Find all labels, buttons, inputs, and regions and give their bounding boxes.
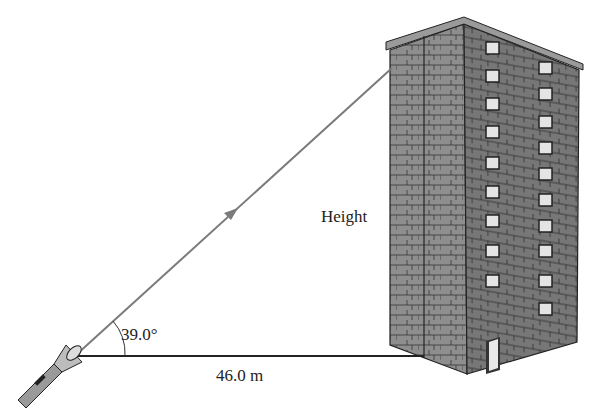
door — [486, 337, 500, 374]
height-label: Height — [321, 207, 367, 227]
window — [539, 62, 552, 74]
window — [486, 245, 499, 257]
distance-label: 46.0 m — [216, 366, 263, 386]
window — [486, 126, 499, 138]
flashlight-icon — [18, 343, 84, 408]
window — [539, 220, 552, 232]
building-right-face — [464, 24, 579, 374]
window — [486, 186, 499, 198]
window — [539, 88, 552, 100]
window — [486, 42, 499, 54]
window — [539, 116, 552, 128]
window — [539, 245, 552, 257]
window — [539, 168, 552, 180]
window — [539, 194, 552, 206]
building — [386, 17, 583, 374]
window — [486, 157, 499, 169]
angle-label: 39.0° — [121, 325, 158, 345]
window — [486, 98, 499, 110]
diagram-canvas — [0, 0, 590, 417]
window — [539, 275, 552, 287]
building-left-face — [390, 24, 467, 374]
window — [539, 303, 552, 315]
window — [539, 142, 552, 154]
window — [486, 215, 499, 227]
window — [486, 70, 499, 82]
window — [486, 275, 499, 287]
